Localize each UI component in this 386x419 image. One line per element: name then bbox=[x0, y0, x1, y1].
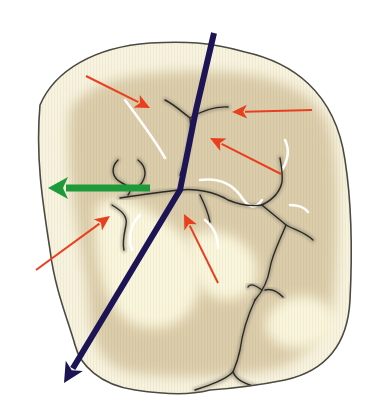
molar-occlusal-diagram bbox=[0, 0, 386, 419]
texture-stripes bbox=[39, 42, 352, 394]
diagram-canvas bbox=[0, 0, 386, 419]
